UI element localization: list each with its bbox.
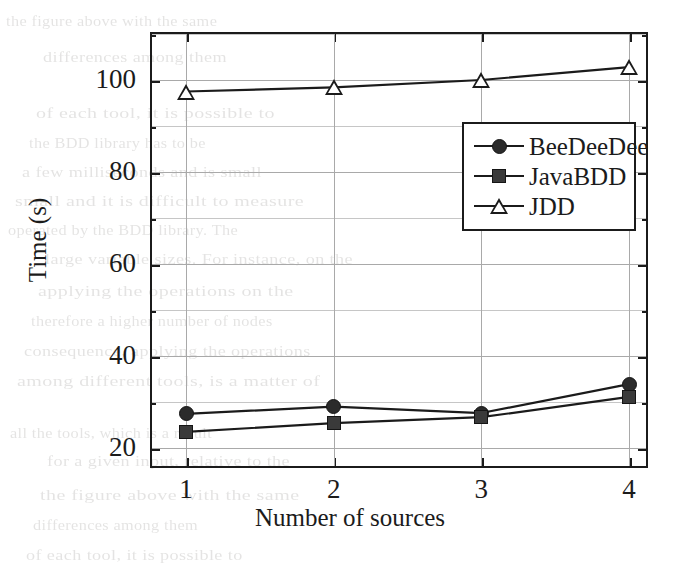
marker-open-triangle [472,72,490,88]
x-axis-tick [630,458,632,467]
y-axis-tick [151,173,160,175]
y-axis-tick-minor [151,403,156,405]
x-axis-tick [335,33,337,42]
y-axis-tick-minor [642,311,647,313]
marker-filled-square [492,169,506,183]
y-axis-tick [638,449,647,451]
legend-item-jdd[interactable]: JDD [473,191,625,221]
y-axis-tick [151,357,160,359]
y-tick-label: 100 [48,66,136,93]
y-tick-label: 80 [48,158,136,185]
x-axis-title: Number of sources [0,504,700,532]
y-axis-tick [151,81,160,83]
marker-filled-circle [179,406,194,421]
y-tick-label: 40 [48,342,136,369]
marker-filled-square [327,416,341,430]
chart-figure: 20406080100 1234 BeeDeeDeeJavaBDDJDD Num… [0,0,700,567]
legend-item-beedeedee[interactable]: BeeDeeDee [473,131,625,161]
legend-label: JavaBDD [525,164,626,189]
y-axis-tick [638,357,647,359]
marker-filled-square [474,410,488,424]
marker-filled-circle [492,139,507,154]
legend-item-javabdd[interactable]: JavaBDD [473,161,625,191]
y-axis-tick [638,173,647,175]
x-axis-tick [482,33,484,42]
x-axis-tick [187,458,189,467]
series-line [186,67,629,91]
y-tick-label: 20 [48,434,136,461]
x-tick-label: 4 [599,476,659,503]
marker-filled-square [622,390,636,404]
marker-open-triangle [620,59,638,75]
y-axis-tick-minor [642,219,647,221]
y-axis-tick-minor [642,127,647,129]
legend-label: JDD [525,194,575,219]
y-axis-tick [151,265,160,267]
y-axis-tick-minor [151,219,156,221]
marker-open-triangle [325,79,343,95]
x-tick-label: 2 [304,476,364,503]
legend-sample [473,133,525,159]
y-axis-title: Time (s) [24,140,52,340]
chart-legend[interactable]: BeeDeeDeeJavaBDDJDD [462,122,636,231]
y-axis-tick [151,449,160,451]
x-axis-tick [335,458,337,467]
y-axis-tick-minor [151,35,156,37]
x-tick-label: 3 [451,476,511,503]
marker-filled-square [179,425,193,439]
y-tick-label: 60 [48,250,136,277]
y-axis-tick-minor [151,311,156,313]
x-axis-tick [187,33,189,42]
y-axis-tick-minor [642,403,647,405]
x-tick-label: 1 [156,476,216,503]
plot-area [150,32,648,468]
y-axis-tick [638,81,647,83]
x-axis-tick [482,458,484,467]
legend-sample [473,193,525,219]
marker-open-triangle [490,198,508,214]
series-line [186,384,629,414]
legend-sample [473,163,525,189]
y-axis-tick-minor [642,35,647,37]
series-line [186,397,629,432]
plot-inner [152,34,646,466]
marker-open-triangle [177,84,195,100]
y-axis-tick-minor [151,127,156,129]
series-lines [152,34,646,466]
x-axis-tick [630,33,632,42]
legend-label: BeeDeeDee [525,134,648,159]
y-axis-tick [638,265,647,267]
